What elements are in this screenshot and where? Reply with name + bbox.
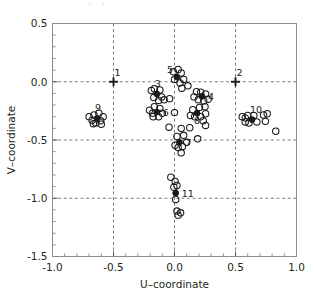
x-tick-label: 0.5 (227, 261, 244, 273)
point-label: 2 (237, 67, 243, 78)
x-tick-label: -0.5 (103, 261, 124, 273)
cluster-centre (94, 115, 100, 121)
x-tick-labels: -1.0-0.50.00.51.0 (42, 261, 305, 273)
data-point (264, 111, 270, 117)
data-point (202, 111, 208, 117)
scatter-plot: 3456789101112 -1.0-0.50.00.51.0 0.50.0-0… (0, 0, 316, 304)
y-tick-labels: 0.50.0-0.5-1.0-1.5 (27, 17, 48, 262)
point-label: 4 (208, 91, 214, 102)
data-point (172, 178, 178, 184)
point-label: 1 (115, 67, 121, 78)
data-point (166, 124, 172, 130)
data-point (187, 125, 193, 131)
y-tick-label: -1.0 (27, 192, 48, 204)
data-point (178, 125, 184, 131)
y-tick-label: -0.5 (27, 134, 48, 146)
cluster-centre (249, 117, 255, 123)
data-point (187, 112, 193, 118)
cluster-centre (174, 74, 180, 80)
point-labels: 3456789101112 (95, 64, 262, 199)
figure-root: · · 3456789101112 -1.0-0.50.00.51.0 0.50… (0, 0, 316, 304)
cluster-centre (199, 93, 205, 99)
point-label: 3 (155, 78, 161, 89)
data-point (185, 83, 191, 89)
data-point (273, 128, 279, 134)
y-tick-label: -1.5 (27, 250, 48, 262)
data-point (262, 118, 268, 124)
point-label: 10 (250, 104, 262, 115)
data-point (178, 150, 184, 156)
cluster-centre (154, 109, 160, 115)
x-tick-label: 1.0 (288, 261, 305, 273)
point-label: 8 (194, 115, 200, 126)
x-tick-label: 0.0 (166, 261, 183, 273)
point-label: 5 (167, 64, 173, 75)
cluster-centre (173, 190, 179, 196)
y-axis-title: V–coordinate (5, 106, 17, 174)
point-label: 9 (95, 102, 101, 113)
grid-lines (53, 24, 297, 257)
point-label: 6 (163, 107, 169, 118)
point-label: 7 (185, 137, 191, 148)
data-point (194, 136, 200, 142)
x-axis-title: U–coordinate (140, 278, 209, 290)
y-tick-label: 0.5 (31, 17, 48, 29)
cluster-centre (154, 91, 160, 97)
cluster-centre (176, 139, 182, 145)
point-label: 11 (182, 188, 194, 199)
y-tick-label: 0.0 (31, 76, 48, 88)
data-point (173, 196, 179, 202)
